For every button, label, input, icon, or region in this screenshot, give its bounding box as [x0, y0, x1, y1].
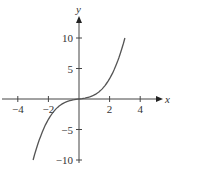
x-tick-label: 2: [107, 103, 113, 115]
x-axis-label: x: [164, 93, 170, 105]
x-tick-label: −4: [12, 103, 24, 115]
y-tick-label: −10: [56, 154, 74, 166]
y-tick-label: 5: [68, 63, 74, 75]
x-axis-arrow-icon: [156, 96, 163, 102]
x-tick-label: 4: [137, 103, 143, 115]
y-tick-label: 10: [62, 32, 74, 44]
y-axis-label: y: [75, 3, 81, 15]
chart: x y −4−224−10−5510: [0, 0, 211, 169]
y-axis-arrow-icon: [76, 16, 82, 23]
axes: x y: [2, 3, 170, 163]
y-tick-label: −5: [61, 124, 73, 136]
